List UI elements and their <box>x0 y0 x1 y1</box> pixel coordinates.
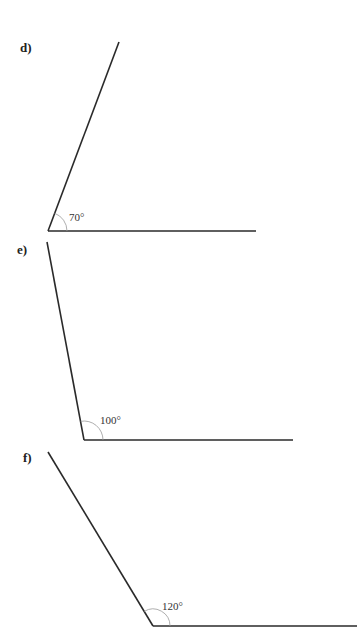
angle-f: f) 120° <box>23 450 357 626</box>
ray-slanted-e <box>47 242 84 440</box>
ray-slanted-d <box>48 42 119 231</box>
angle-value-f: 120° <box>162 600 183 612</box>
angle-value-e: 100° <box>100 414 121 426</box>
angle-d: d) 70° <box>20 40 256 231</box>
problem-label-f: f) <box>23 450 32 465</box>
problem-label-e: e) <box>17 242 27 257</box>
angle-value-d: 70° <box>69 211 84 223</box>
ray-slanted-f <box>48 452 153 626</box>
angles-figure: d) 70° e) 100° f) 120° <box>0 0 357 644</box>
angle-arc-d <box>55 213 68 231</box>
angle-e: e) 100° <box>17 242 293 440</box>
problem-label-d: d) <box>20 40 32 55</box>
